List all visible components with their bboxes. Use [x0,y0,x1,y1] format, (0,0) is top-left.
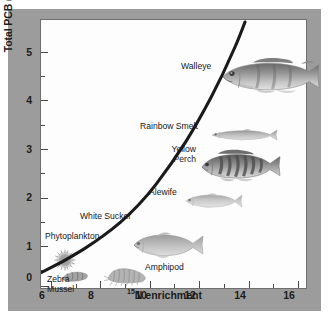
y-axis-title: Total PCB (µg/g, dry weight) [2,0,16,69]
label-rainbow-smelt: Rainbow Smelt [140,122,198,132]
label-yellow-perch-line1: Yellow [171,144,196,154]
y-tick-label-3: 3 [12,143,32,155]
label-amphipod: Amphipod [145,263,184,273]
y-tick-label-4: 4 [12,94,32,106]
figure-panel: Total PCB (µg/g, dry weight) 5 4 3 2 1 0… [8,9,321,311]
y-tick-label-5: 5 [12,46,32,58]
y-tick-label-2: 2 [12,191,32,203]
label-yellow-perch: YellowPerch [154,145,196,164]
label-zebra-mussel-line1: Zebra [47,274,69,284]
plot-area: Phytoplankton ZebraMussel Amphipod White… [40,19,307,289]
label-yellow-perch-line2: Perch [174,154,196,164]
label-phytoplankton: Phytoplankton [45,232,99,242]
y-tick-label-1: 1 [12,240,32,252]
label-alewife: Alewife [149,188,177,198]
x-axis-title-text: N enrichment [135,289,202,301]
y-tick-label-0: 0 [12,271,32,283]
x-axis-title-superscript: 15 [127,288,135,295]
label-zebra-mussel-line2: Mussel [47,284,74,294]
label-white-sucker: White Sucker [80,212,131,222]
label-walleye: Walleye [181,62,211,72]
label-zebra-mussel: ZebraMussel [47,275,74,294]
